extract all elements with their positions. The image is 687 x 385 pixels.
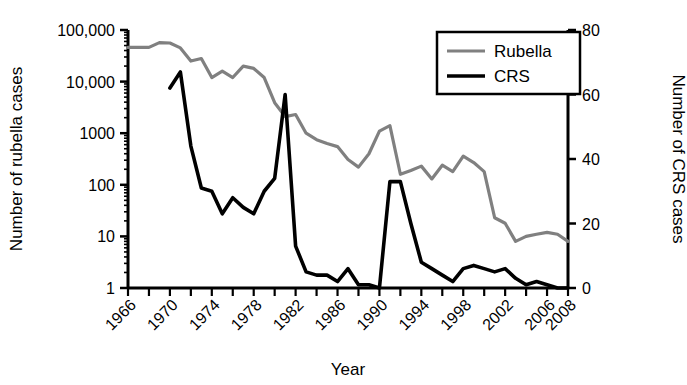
legend-label-rubella: Rubella — [494, 42, 552, 61]
y-tick-label-right: 60 — [582, 87, 600, 104]
x-axis-title: Year — [331, 360, 366, 379]
y-tick-label-right: 20 — [582, 216, 600, 233]
y-tick-label-left: 10,000 — [66, 74, 115, 91]
y-tick-label-right: 80 — [582, 22, 600, 39]
y-tick-label-left: 1 — [106, 280, 115, 297]
x-tick-label: 1998 — [437, 296, 474, 333]
rubella-crs-line-chart: 110100100010,000100,00002040608019661970… — [0, 0, 687, 385]
x-tick-label: 1986 — [311, 296, 348, 333]
series-line-crs — [170, 72, 568, 288]
y-tick-label-left: 10 — [97, 228, 115, 245]
x-tick-label: 2002 — [479, 296, 516, 333]
y-axis-title-left: Number of rubella cases — [7, 67, 26, 251]
x-tick-label: 1966 — [102, 296, 139, 333]
legend-label-crs: CRS — [494, 67, 530, 86]
x-tick-label: 1978 — [228, 296, 265, 333]
x-tick-label: 1970 — [144, 296, 181, 333]
y-tick-label-right: 40 — [582, 151, 600, 168]
y-tick-label-left: 100 — [88, 177, 115, 194]
y-tick-label-left: 1000 — [79, 125, 115, 142]
x-tick-label: 1982 — [270, 296, 307, 333]
y-axis-title-right: Number of CRS cases — [669, 74, 687, 243]
y-tick-label-left: 100,000 — [57, 22, 115, 39]
x-tick-label: 1974 — [186, 296, 223, 333]
chart-figure: 110100100010,000100,00002040608019661970… — [0, 0, 687, 385]
chart-legend: RubellaCRS — [437, 32, 580, 94]
x-tick-label: 1990 — [353, 296, 390, 333]
x-tick-label: 1994 — [395, 296, 432, 333]
y-tick-label-right: 0 — [582, 280, 591, 297]
